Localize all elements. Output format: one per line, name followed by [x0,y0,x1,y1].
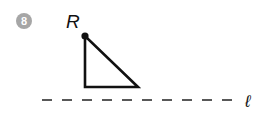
right-triangle [85,36,138,87]
reflection-diagram: R ℓ [0,0,267,121]
point-r-dot [81,32,88,39]
point-r-label: R [66,11,80,32]
line-l-label: ℓ [244,92,251,111]
